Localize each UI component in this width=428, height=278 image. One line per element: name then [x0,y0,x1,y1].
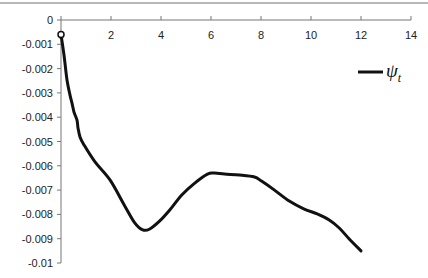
y-tick-label: -0.009 [22,233,53,245]
y-tick-label: -0.003 [22,87,53,99]
y-tick-label: -0.01 [28,257,53,269]
series-group [58,32,361,251]
y-tick-label: -0.005 [22,136,53,148]
line-chart: 0-0.001-0.002-0.003-0.004-0.005-0.006-0.… [0,0,428,278]
series-line-psi-t [61,35,361,251]
x-tick-label: 10 [305,29,317,41]
start-point-marker [58,32,64,38]
y-tick-label: -0.006 [22,160,53,172]
y-tick-label: -0.004 [22,111,53,123]
y-tick-label: -0.002 [22,63,53,75]
y-tick-label: -0.007 [22,184,53,196]
y-tick-label: 0 [47,14,53,26]
x-tick-label: 12 [355,29,367,41]
y-tick-label: -0.001 [22,38,53,50]
legend-subscript: t [398,71,402,85]
x-tick-label: 14 [405,29,417,41]
x-tick-label: 4 [158,29,164,41]
x-tick-label: 2 [108,29,114,41]
y-tick-label: -0.008 [22,208,53,220]
legend-label: ψt [386,60,402,85]
legend: ψt [358,60,402,85]
x-tick-label: 6 [208,29,214,41]
x-tick-label: 8 [258,29,264,41]
